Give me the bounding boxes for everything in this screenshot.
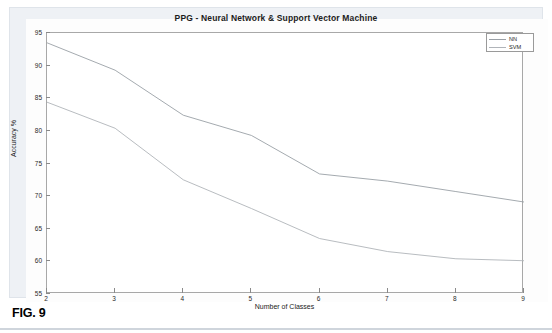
y-tick-mark <box>46 228 50 229</box>
y-tick-mark <box>46 65 50 66</box>
y-tick-label: 70 <box>35 192 42 199</box>
x-tick-mark <box>387 288 388 293</box>
x-tick-mark <box>182 288 183 293</box>
y-tick-mark <box>46 293 50 294</box>
y-axis-ticks: 556065707580859095 <box>24 32 42 293</box>
y-tick-label: 90 <box>35 61 42 68</box>
y-tick-mark <box>46 97 50 98</box>
x-tick-mark <box>319 288 320 293</box>
legend-entry-nn[interactable]: NN <box>489 36 531 43</box>
legend-swatch-icon <box>489 47 506 48</box>
legend-entry-svm[interactable]: SVM <box>489 44 531 51</box>
x-tick-mark <box>250 288 251 293</box>
x-tick-mark <box>46 288 47 293</box>
y-tick-label: 55 <box>35 290 42 297</box>
y-tick-mark <box>46 195 50 196</box>
x-tick-label: 3 <box>112 295 116 302</box>
document-page: PPG - Neural Network & Support Vector Ma… <box>0 0 552 333</box>
page-divider <box>0 328 552 330</box>
series-line-nn <box>47 43 524 202</box>
series-line-svm <box>47 102 524 261</box>
x-tick-mark <box>523 288 524 293</box>
y-axis-label: Accuracy % <box>10 104 17 174</box>
series-lines <box>47 33 524 294</box>
x-tick-mark <box>114 288 115 293</box>
x-tick-label: 5 <box>249 295 253 302</box>
x-tick-mark <box>455 288 456 293</box>
x-tick-label: 2 <box>44 295 48 302</box>
x-tick-label: 8 <box>453 295 457 302</box>
chart-title: PPG - Neural Network & Support Vector Ma… <box>0 13 552 23</box>
x-axis-label: Number of Classes <box>46 303 523 310</box>
x-tick-label: 9 <box>521 295 525 302</box>
y-tick-label: 85 <box>35 94 42 101</box>
legend-label: SVM <box>509 44 521 51</box>
y-tick-mark <box>46 163 50 164</box>
y-tick-label: 60 <box>35 257 42 264</box>
chart-legend: NNSVM <box>486 33 534 52</box>
y-tick-mark <box>46 32 50 33</box>
x-tick-label: 7 <box>385 295 389 302</box>
plot-area <box>46 32 523 293</box>
legend-swatch-icon <box>489 39 506 40</box>
figure-caption: FIG. 9 <box>12 306 46 320</box>
y-tick-label: 65 <box>35 224 42 231</box>
y-tick-label: 75 <box>35 159 42 166</box>
y-tick-label: 95 <box>35 29 42 36</box>
x-tick-label: 6 <box>317 295 321 302</box>
legend-label: NN <box>509 36 517 43</box>
x-tick-label: 4 <box>180 295 184 302</box>
y-tick-label: 80 <box>35 126 42 133</box>
y-tick-mark <box>46 130 50 131</box>
y-tick-mark <box>46 260 50 261</box>
